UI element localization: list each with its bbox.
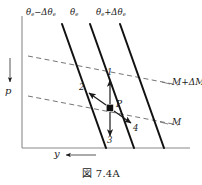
label-theta-minus-delta-theta: θe−Δθe (26, 8, 56, 17)
label-arrow-1: 1 (107, 68, 112, 77)
figure-caption: 図 7.4A (0, 165, 202, 180)
figure-container: θe−Δθe θe θe+Δθe M+ΔM M p y P 1 2 3 4 図 … (0, 0, 202, 185)
label-arrow-2: 2 (79, 83, 84, 92)
label-theta-center: θe (70, 8, 78, 17)
line-m (28, 96, 178, 125)
label-m: M (172, 118, 181, 127)
label-m-plus-delta-m: M+ΔM (172, 78, 202, 87)
label-axis-y: y (54, 149, 60, 159)
label-point-p: P (116, 100, 122, 109)
angular-momentum-lines (28, 56, 178, 125)
label-theta-plus-delta-theta: θe+Δθe (96, 8, 126, 17)
point-p-marker (107, 105, 114, 112)
label-arrow-4: 4 (133, 124, 138, 133)
label-axis-pressure: p (5, 86, 11, 96)
arrow-2-upper-left (89, 93, 106, 105)
theta-e-lines (62, 24, 164, 148)
label-leaders (160, 82, 170, 124)
diagram-canvas (0, 0, 202, 185)
label-arrow-3: 3 (107, 136, 112, 145)
